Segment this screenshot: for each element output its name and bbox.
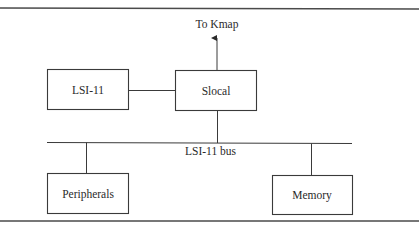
peripherals-label: Peripherals xyxy=(62,188,114,201)
lsi11-label: LSI-11 xyxy=(72,84,104,96)
slocal-label: Slocal xyxy=(202,85,231,97)
diagram-canvas: To Kmap LSI-11 Slocal LSI-11 bus Periphe… xyxy=(0,0,419,230)
lsi11-bus-line xyxy=(47,143,352,144)
node-memory: Memory xyxy=(273,176,353,215)
top-rule xyxy=(0,8,419,9)
node-slocal: Slocal xyxy=(176,71,257,111)
node-lsi11: LSI-11 xyxy=(48,70,129,110)
memory-label: Memory xyxy=(292,189,332,202)
node-peripherals: Peripherals xyxy=(48,174,129,214)
bus-label: LSI-11 bus xyxy=(185,145,237,157)
to-kmap-label: To Kmap xyxy=(196,18,239,31)
